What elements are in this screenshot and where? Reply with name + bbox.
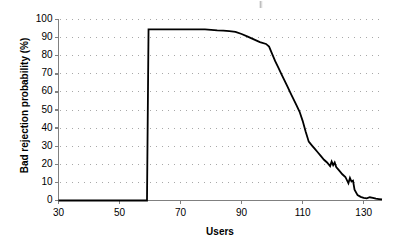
y-tick-label: 50 bbox=[29, 104, 53, 115]
y-tick-label: 20 bbox=[29, 158, 53, 169]
scan-artifact bbox=[259, 1, 263, 8]
y-tick-label: 100 bbox=[29, 13, 53, 24]
y-tick-label: 60 bbox=[29, 85, 53, 96]
x-tick-label: 130 bbox=[349, 207, 379, 218]
y-tick-label: 30 bbox=[29, 140, 53, 151]
chart-figure: 0102030405060708090100 30507090110130 Ba… bbox=[0, 0, 398, 245]
data-series-line bbox=[59, 29, 383, 200]
x-tick-label: 70 bbox=[166, 207, 196, 218]
y-tick-label: 90 bbox=[29, 31, 53, 42]
x-tick-label: 90 bbox=[227, 207, 257, 218]
x-tick-label: 110 bbox=[288, 207, 318, 218]
y-tick-label: 80 bbox=[29, 49, 53, 60]
series-line bbox=[59, 29, 383, 200]
x-axis-title: Users bbox=[58, 226, 382, 237]
gridlines bbox=[60, 20, 383, 183]
x-tick-label: 30 bbox=[44, 207, 74, 218]
tick-marks bbox=[55, 20, 364, 205]
y-tick-label: 40 bbox=[29, 122, 53, 133]
y-tick-label: 10 bbox=[29, 176, 53, 187]
axis-lines bbox=[59, 20, 383, 201]
y-tick-label: 70 bbox=[29, 67, 53, 78]
y-tick-label: 0 bbox=[29, 194, 53, 205]
y-axis-title: Bad rejection probability (%) bbox=[19, 16, 30, 196]
x-tick-label: 50 bbox=[105, 207, 135, 218]
